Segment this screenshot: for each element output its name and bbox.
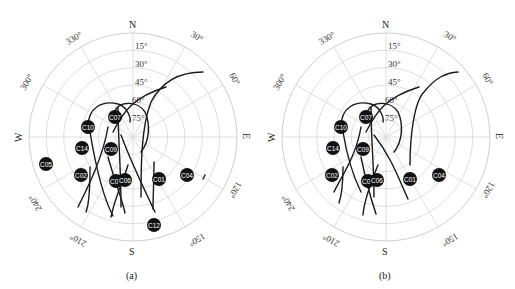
- sat-c01: C01: [152, 172, 166, 186]
- svg-text:C06: C06: [371, 177, 383, 184]
- sat-c07: C07: [359, 110, 373, 124]
- sat-c14: C14: [75, 141, 89, 155]
- panel-caption-a: (a): [126, 270, 137, 282]
- elevation-label-45: 45°: [388, 77, 401, 87]
- svg-text:C0: C0: [362, 178, 371, 185]
- azimuth-label-300: 300°: [271, 72, 288, 92]
- east-label: E: [241, 133, 252, 139]
- west-label: W: [266, 132, 277, 142]
- svg-text:C05: C05: [40, 161, 52, 168]
- svg-text:C02: C02: [75, 172, 87, 179]
- east-label: E: [494, 133, 505, 139]
- azimuth-label-60: 60°: [480, 71, 495, 87]
- azimuth-label-300: 300°: [18, 72, 35, 92]
- svg-text:C02: C02: [326, 172, 338, 179]
- skyplot-panel-b: N S E W 30° 60° 120° 150° 210° 240° 300°…: [266, 19, 505, 282]
- svg-text:C07: C07: [360, 114, 372, 121]
- azimuth-label-210: 210°: [321, 232, 341, 249]
- azimuth-label-240: 240°: [279, 193, 296, 213]
- azimuth-label-240: 240°: [26, 193, 43, 213]
- svg-text:C06: C06: [119, 177, 131, 184]
- azimuth-spokes: [282, 33, 490, 241]
- svg-text:C10: C10: [335, 124, 347, 131]
- svg-text:C14: C14: [76, 145, 88, 152]
- sat-c12: C12: [147, 218, 161, 232]
- west-label: W: [13, 132, 24, 142]
- sat-c06: C06: [118, 173, 132, 187]
- azimuth-spokes: [29, 33, 237, 241]
- azimuth-label-210: 210°: [68, 232, 88, 249]
- svg-text:C01: C01: [153, 176, 165, 183]
- sat-c01: C01: [403, 172, 417, 186]
- sat-c10: C10: [334, 120, 348, 134]
- north-label: N: [382, 19, 389, 30]
- azimuth-label-330: 330°: [317, 29, 337, 46]
- sat-c14: C14: [326, 141, 340, 155]
- azimuth-label-30: 30°: [189, 29, 205, 44]
- sat-c05: C05: [39, 157, 53, 171]
- elevation-label-30: 30°: [135, 59, 148, 69]
- svg-text:C10: C10: [82, 124, 94, 131]
- elevation-label-30: 30°: [388, 59, 401, 69]
- sat-c07: C07: [108, 110, 122, 124]
- svg-text:C0: C0: [110, 178, 119, 185]
- svg-text:C12: C12: [148, 222, 160, 229]
- skyplot-panel-a: N S E W 30° 60° 120° 150° 210° 240° 300°…: [13, 19, 252, 282]
- azimuth-label-150: 150°: [440, 231, 460, 248]
- azimuth-label-150: 150°: [187, 231, 207, 248]
- north-label: N: [129, 19, 136, 30]
- sat-c06: C06: [370, 173, 384, 187]
- sat-c04: C04: [180, 168, 194, 182]
- svg-text:C04: C04: [433, 172, 445, 179]
- sat-c04: C04: [432, 168, 446, 182]
- svg-text:C14: C14: [327, 145, 339, 152]
- svg-text:C09: C09: [357, 146, 369, 153]
- panel-caption-b: (b): [379, 270, 391, 282]
- south-label: S: [129, 246, 135, 257]
- sat-c10: C10: [81, 120, 95, 134]
- svg-text:C04: C04: [181, 172, 193, 179]
- azimuth-label-60: 60°: [227, 71, 242, 87]
- azimuth-label-330: 330°: [64, 29, 84, 46]
- sat-c02: C02: [325, 168, 339, 182]
- svg-text:C09: C09: [105, 146, 117, 153]
- elevation-label-15: 15°: [388, 41, 401, 51]
- azimuth-label-30: 30°: [442, 29, 458, 44]
- svg-text:C01: C01: [404, 176, 416, 183]
- elevation-label-75: 75°: [132, 113, 145, 123]
- sat-c02: C02: [74, 168, 88, 182]
- elevation-label-75: 75°: [385, 113, 398, 123]
- elevation-label-45: 45°: [135, 77, 148, 87]
- sat-c09: C09: [356, 142, 370, 156]
- sat-c09: C09: [104, 142, 118, 156]
- south-label: S: [382, 246, 388, 257]
- svg-text:C07: C07: [109, 114, 121, 121]
- elevation-label-15: 15°: [135, 41, 148, 51]
- azimuth-label-120: 120°: [227, 180, 244, 200]
- satellite-tracks: [78, 72, 205, 217]
- skyplot-figure: N S E W 30° 60° 120° 150° 210° 240° 300°…: [0, 0, 515, 289]
- azimuth-label-120: 120°: [480, 180, 497, 200]
